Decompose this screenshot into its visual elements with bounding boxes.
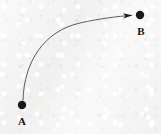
node-a-label: A — [18, 115, 26, 127]
figure-canvas: A B — [0, 0, 161, 134]
edge-a-to-b — [23, 15, 132, 100]
node-b-label: B — [137, 25, 145, 37]
diagram-svg: A B — [0, 0, 161, 134]
node-b-dot[interactable] — [136, 11, 144, 19]
node-a-dot[interactable] — [18, 101, 26, 109]
